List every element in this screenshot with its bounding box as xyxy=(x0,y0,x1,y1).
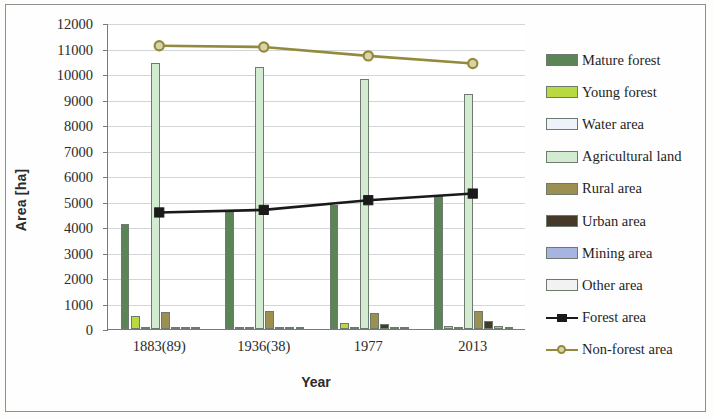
y-axis-tick-label: 12000 xyxy=(57,16,93,33)
bar xyxy=(181,327,190,329)
y-axis-tick xyxy=(103,330,108,331)
x-axis-title: Year xyxy=(107,374,525,390)
bar xyxy=(360,79,369,329)
legend-item[interactable]: Mature forest xyxy=(546,44,706,76)
legend-item[interactable]: Agricultural land xyxy=(546,141,706,173)
bar xyxy=(296,327,305,329)
legend-color-swatch xyxy=(546,54,578,66)
bar xyxy=(484,321,493,329)
legend-item[interactable]: Non-forest area xyxy=(546,334,706,366)
bar xyxy=(285,327,294,329)
chart-figure: Area [ha] 010002000300040005000600070008… xyxy=(0,0,713,419)
bar xyxy=(131,316,140,329)
bar xyxy=(275,327,284,329)
legend-color-swatch xyxy=(546,247,578,259)
bar xyxy=(151,63,160,329)
y-axis-tick xyxy=(103,177,108,178)
legend-circle-marker-icon xyxy=(557,345,566,354)
bar xyxy=(434,196,443,329)
bar xyxy=(235,327,244,329)
legend-item[interactable]: Forest area xyxy=(546,302,706,334)
gridline xyxy=(108,279,525,280)
gridline xyxy=(108,203,525,204)
y-axis-tick-label: 10000 xyxy=(57,67,93,84)
gridline xyxy=(108,24,525,25)
y-axis-tick xyxy=(103,305,108,306)
legend-item[interactable]: Water area xyxy=(546,108,706,140)
y-axis-tick-label: 11000 xyxy=(57,41,93,58)
x-axis-tick-label: 1883(89) xyxy=(133,338,186,355)
y-axis-tick xyxy=(103,254,108,255)
legend-square-marker-icon xyxy=(557,314,567,322)
y-axis-tick xyxy=(103,50,108,51)
gridline xyxy=(108,50,525,51)
legend-item-label: Mature forest xyxy=(582,52,661,69)
y-axis-tick-label: 6000 xyxy=(64,169,93,186)
bar xyxy=(454,327,463,329)
legend-color-swatch xyxy=(546,183,578,195)
bar xyxy=(141,327,150,329)
gridline xyxy=(108,177,525,178)
x-axis-tick-labels: 1883(89)1936(38)19772013 xyxy=(107,334,525,360)
gridline xyxy=(108,126,525,127)
legend-item-label: Mining area xyxy=(582,245,652,262)
legend-item-label: Agricultural land xyxy=(582,148,681,165)
y-axis-tick-label: 2000 xyxy=(64,271,93,288)
chart-legend: Mature forestYoung forestWater areaAgric… xyxy=(546,44,706,366)
legend-item-label: Urban area xyxy=(582,213,646,230)
bar xyxy=(474,311,483,329)
legend-color-swatch xyxy=(546,215,578,227)
y-axis-tick xyxy=(103,101,108,102)
gridline xyxy=(108,254,525,255)
legend-item-label: Water area xyxy=(582,116,644,133)
bar xyxy=(400,327,409,329)
bar xyxy=(330,205,339,329)
bar xyxy=(191,327,200,329)
legend-line-swatch xyxy=(546,312,578,324)
plot-area xyxy=(107,24,525,330)
gridline xyxy=(108,152,525,153)
y-axis-tick xyxy=(103,152,108,153)
plot-wrapper xyxy=(107,24,525,330)
legend-item[interactable]: Other area xyxy=(546,269,706,301)
gridline xyxy=(108,75,525,76)
bar xyxy=(245,327,254,329)
y-axis-tick-label: 1000 xyxy=(64,296,93,313)
y-axis-tick-label: 5000 xyxy=(64,194,93,211)
y-axis-tick xyxy=(103,228,108,229)
bar xyxy=(225,210,234,329)
bar xyxy=(494,326,503,329)
gridline xyxy=(108,228,525,229)
legend-item[interactable]: Urban area xyxy=(546,205,706,237)
bar xyxy=(350,327,359,329)
y-axis-tick xyxy=(103,24,108,25)
legend-item-label: Rural area xyxy=(582,180,642,197)
legend-item[interactable]: Young forest xyxy=(546,76,706,108)
x-axis-tick-label: 1977 xyxy=(354,338,383,355)
legend-line-swatch xyxy=(546,344,578,356)
y-axis-tick xyxy=(103,203,108,204)
y-axis-tick-label: 7000 xyxy=(64,143,93,160)
legend-item-label: Forest area xyxy=(582,309,646,326)
bar xyxy=(380,324,389,329)
bar xyxy=(161,312,170,329)
legend-color-swatch xyxy=(546,118,578,130)
y-axis-tick-label: 4000 xyxy=(64,220,93,237)
legend-item-label: Young forest xyxy=(582,84,657,101)
bar xyxy=(370,313,379,329)
x-axis-tick-label: 1936(38) xyxy=(237,338,290,355)
legend-color-swatch xyxy=(546,151,578,163)
bar xyxy=(255,67,264,329)
y-axis-tick-label: 3000 xyxy=(64,245,93,262)
legend-item[interactable]: Mining area xyxy=(546,237,706,269)
y-axis-tick-label: 0 xyxy=(86,322,93,339)
gridline xyxy=(108,101,525,102)
bar xyxy=(390,327,399,329)
bar xyxy=(171,327,180,329)
bar xyxy=(340,323,349,329)
legend-color-swatch xyxy=(546,86,578,98)
x-axis-tick-label: 2013 xyxy=(458,338,487,355)
legend-color-swatch xyxy=(546,279,578,291)
legend-item[interactable]: Rural area xyxy=(546,173,706,205)
bar xyxy=(464,94,473,329)
